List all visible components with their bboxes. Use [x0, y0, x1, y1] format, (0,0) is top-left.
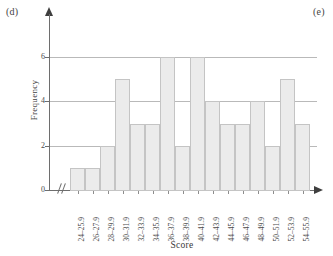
histogram-bar: [235, 124, 250, 192]
histogram-bar: [130, 124, 145, 192]
x-axis-tick-label: 42–43.9: [213, 217, 221, 256]
x-axis-title: Score: [49, 240, 315, 250]
x-axis-tick-label: 52–53.9: [288, 217, 296, 256]
histogram-bar: [250, 101, 265, 191]
x-axis-tick-label: 26–27.9: [93, 217, 101, 256]
x-axis-tick: [138, 191, 139, 194]
x-axis-tick: [153, 191, 154, 194]
y-axis-tick: [45, 146, 50, 147]
x-axis-tick: [213, 191, 214, 194]
histogram-bar: [100, 146, 115, 191]
x-axis-tick: [168, 191, 169, 194]
x-axis-tick-label: 54–55.9: [303, 217, 311, 256]
y-axis-tick-label: 6: [5, 53, 45, 61]
x-axis-tick-label: 34–35.9: [153, 217, 161, 256]
histogram-bar: [160, 57, 175, 191]
bar-series: [70, 14, 310, 191]
x-axis-tick-label: 36–37.9: [168, 217, 176, 256]
histogram-bar: [145, 124, 160, 192]
x-axis-tick: [228, 191, 229, 194]
y-axis-tick-label: 2: [5, 142, 45, 150]
x-axis-tick: [273, 191, 274, 194]
x-axis-tick: [93, 191, 94, 194]
y-axis-title: Frequency: [29, 60, 39, 140]
x-axis-tick-label: 30–31.9: [123, 217, 131, 256]
x-axis-tick: [198, 191, 199, 194]
x-axis-tick-label: 32–33.9: [138, 217, 146, 256]
histogram-bar: [205, 101, 220, 191]
histogram-bar: [295, 124, 310, 192]
histogram-bar: [70, 168, 85, 191]
histogram-bar: [175, 146, 190, 191]
histogram-bar: [265, 146, 280, 191]
x-axis-tick: [78, 191, 79, 194]
x-axis-tick-label: 40–41.9: [198, 217, 206, 256]
y-axis-line: [49, 14, 50, 191]
x-axis-arrow-icon: [314, 186, 323, 194]
histogram-bar: [220, 124, 235, 192]
x-axis-tick-label: 28–29.9: [108, 217, 116, 256]
histogram-bar: [85, 168, 100, 191]
x-axis-tick-label: 48–49.9: [258, 217, 266, 256]
x-axis-tick: [108, 191, 109, 194]
x-axis-tick: [303, 191, 304, 194]
x-axis-tick-label: 38–39.9: [183, 217, 191, 256]
histogram-bar: [280, 79, 295, 191]
y-axis-tick-label: 4: [5, 97, 45, 105]
x-axis-tick-label: 44–45.9: [228, 217, 236, 256]
x-axis-tick: [183, 191, 184, 194]
x-axis-tick: [258, 191, 259, 194]
y-axis-tick: [45, 101, 50, 102]
histogram-bar: [115, 79, 130, 191]
x-axis-tick: [288, 191, 289, 194]
x-axis-tick: [123, 191, 124, 194]
x-axis-tick-labels: 24–25.926–27.928–29.930–31.932–33.934–35…: [70, 191, 310, 231]
x-axis-tick: [243, 191, 244, 194]
axis-break-icon: [57, 183, 69, 195]
y-axis-tick-label: 0: [5, 186, 45, 194]
x-axis-tick-label: 46–47.9: [243, 217, 251, 256]
x-axis-tick-label: 50–51.9: [273, 217, 281, 256]
y-axis-tick: [45, 57, 50, 58]
y-axis-tick: [45, 190, 50, 191]
histogram-chart: 0246 Frequency 24–25.926–27.928–29.930–3…: [0, 0, 333, 256]
x-axis-tick-label: 24–25.9: [78, 217, 86, 256]
histogram-bar: [190, 57, 205, 191]
